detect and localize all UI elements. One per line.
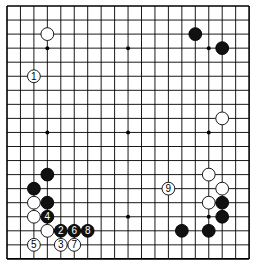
star-point — [45, 130, 49, 134]
star-point — [126, 215, 130, 219]
go-board: 142685379 — [0, 0, 255, 269]
black-stone — [175, 224, 188, 237]
black-stone — [28, 182, 41, 195]
star-point — [126, 130, 130, 134]
black-stone — [216, 42, 229, 55]
white-stone — [41, 28, 54, 41]
move-number-label: 1 — [31, 71, 37, 82]
move-number-label: 8 — [85, 225, 91, 236]
star-point — [45, 46, 49, 50]
white-stone — [216, 182, 229, 195]
white-stone — [28, 210, 41, 223]
black-stone — [41, 168, 54, 181]
white-stone — [202, 196, 215, 209]
white-stone — [28, 196, 41, 209]
star-point — [207, 46, 211, 50]
move-number-label: 5 — [31, 239, 37, 250]
star-point — [207, 130, 211, 134]
star-point — [126, 46, 130, 50]
move-number-label: 2 — [58, 225, 64, 236]
move-number-label: 4 — [45, 211, 51, 222]
black-stone — [216, 196, 229, 209]
move-number-label: 9 — [166, 183, 172, 194]
move-number-label: 7 — [71, 239, 77, 250]
star-point — [207, 215, 211, 219]
black-stone — [216, 210, 229, 223]
white-stone — [216, 112, 229, 125]
move-number-label: 3 — [58, 239, 64, 250]
black-stone — [189, 28, 202, 41]
move-number-label: 6 — [71, 225, 77, 236]
black-stone — [41, 196, 54, 209]
black-stone — [202, 224, 215, 237]
white-stone — [41, 224, 54, 237]
white-stone — [202, 168, 215, 181]
